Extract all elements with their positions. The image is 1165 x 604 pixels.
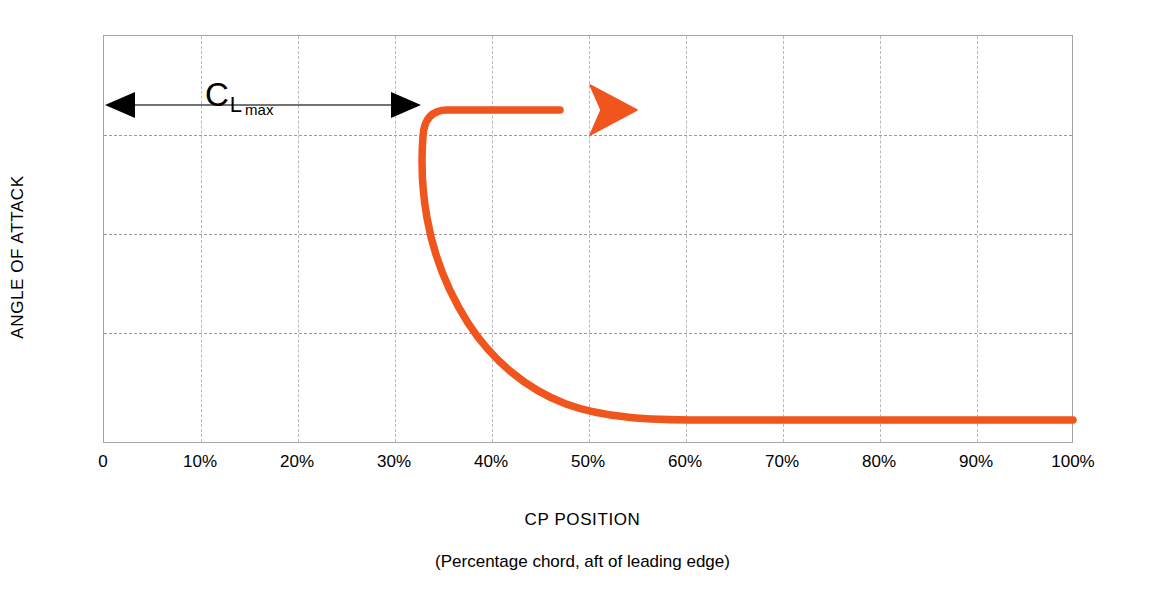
gridline-vertical [589, 36, 590, 442]
gridline-vertical [492, 36, 493, 442]
gridline-vertical [977, 36, 978, 442]
gridline-horizontal [104, 135, 1072, 136]
gridline-vertical [395, 36, 396, 442]
xtick-label: 50% [571, 452, 605, 472]
gridline-vertical [298, 36, 299, 442]
x-axis-subtitle: (Percentage chord, aft of leading edge) [0, 552, 1165, 572]
xtick-label: 20% [280, 452, 314, 472]
x-axis-title: CP POSITION [0, 510, 1165, 530]
cl-max-label-sub-l: L [230, 92, 242, 117]
xtick-label: 60% [668, 452, 702, 472]
xtick-label: 30% [377, 452, 411, 472]
xtick-label: 40% [474, 452, 508, 472]
cl-max-label-sub-max: max [245, 101, 273, 118]
xtick-label: 10% [183, 452, 217, 472]
gridline-vertical [686, 36, 687, 442]
chart-canvas: CLmax 0 10% 20% 30% 40% 50% 60% 70% 80% … [0, 0, 1165, 604]
cl-max-label-c: C [205, 76, 229, 113]
gridline-vertical [783, 36, 784, 442]
gridline-horizontal [104, 234, 1072, 235]
xtick-label: 0 [98, 452, 107, 472]
xtick-label: 80% [862, 452, 896, 472]
cl-max-label: CLmax [205, 78, 269, 117]
xtick-label: 90% [959, 452, 993, 472]
gridline-horizontal [104, 333, 1072, 334]
xtick-label: 70% [765, 452, 799, 472]
gridline-vertical [201, 36, 202, 442]
y-axis-title: ANGLE OF ATTACK [0, 53, 36, 461]
xtick-label: 100% [1051, 452, 1094, 472]
gridline-vertical [880, 36, 881, 442]
